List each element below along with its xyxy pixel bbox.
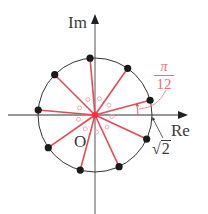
radius-value: 2 [161, 140, 171, 157]
angle-denominator: 12 [157, 77, 172, 92]
root-point [45, 144, 52, 151]
origin-label: O [74, 133, 86, 150]
inner-point [83, 127, 87, 131]
inner-point [105, 125, 109, 129]
real-axis-label: Re [171, 122, 190, 139]
angle-label: π 12 [154, 60, 174, 92]
complex-plane-diagram [0, 0, 208, 214]
radius-leader [153, 119, 163, 138]
sqrt-icon: √ [152, 140, 161, 157]
root-point [77, 166, 84, 173]
root-ray [55, 75, 95, 115]
inner-point [107, 103, 111, 107]
inner-point [97, 97, 101, 101]
inner-point [77, 117, 81, 121]
root-point [115, 163, 122, 170]
inner-point [86, 98, 90, 102]
angle-numerator: π [160, 60, 167, 74]
root-point [124, 65, 131, 72]
root-point [146, 97, 153, 104]
root-ray [95, 115, 147, 139]
root-point [51, 71, 58, 78]
root-point [35, 106, 42, 113]
root-ray [90, 58, 95, 115]
root-point [143, 135, 150, 142]
inner-point [78, 106, 82, 110]
radius-label: √2 [152, 140, 171, 157]
root-ray [38, 110, 95, 115]
root-point [86, 55, 93, 62]
imag-axis-label: Im [68, 14, 87, 31]
origin-dot [92, 112, 98, 118]
root-ray [95, 115, 119, 167]
